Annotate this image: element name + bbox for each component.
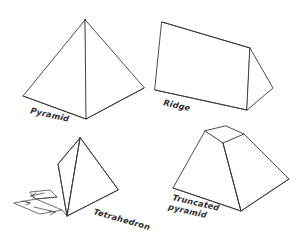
geometric-solids-figure: Pyramid Ridge Tetrahedron Truncated pyra… xyxy=(0,0,305,243)
ridge-end-triangle-face xyxy=(247,48,273,110)
pyramid-left-face xyxy=(23,20,86,119)
net-arrow-lower xyxy=(34,207,55,215)
net-fold-line xyxy=(36,197,57,199)
pyramid-apex-point xyxy=(84,19,86,21)
label-ridge: Ridge xyxy=(163,97,192,113)
net-arrow-middle xyxy=(22,201,30,205)
label-tetrahedron: Tetrahedron xyxy=(92,206,151,232)
figure-canvas: Pyramid Ridge Tetrahedron Truncated pyra… xyxy=(0,0,305,243)
shape-tetrahedron xyxy=(58,137,118,216)
shape-ridge xyxy=(155,22,273,110)
ridge-left-face xyxy=(155,22,250,110)
tetrahedron-apex-point xyxy=(79,137,81,139)
shape-pyramid xyxy=(23,19,144,119)
tetrahedron-net-sketch xyxy=(14,190,67,216)
